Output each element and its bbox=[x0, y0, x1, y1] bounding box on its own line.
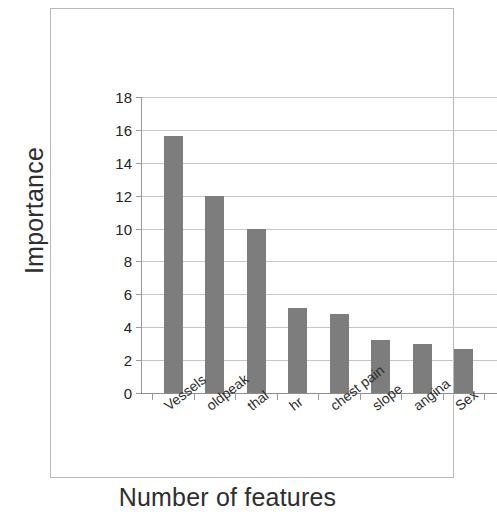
x-tick-mark bbox=[277, 393, 278, 400]
bar bbox=[288, 308, 307, 394]
y-tick-label: 0 bbox=[124, 385, 132, 402]
x-tick-mark bbox=[318, 393, 319, 400]
x-axis-labels: Vesselsoldpeakthalhrchest painslopeangin… bbox=[141, 401, 497, 481]
y-tick-label: 4 bbox=[124, 319, 132, 336]
bar bbox=[205, 196, 224, 393]
bar bbox=[330, 314, 349, 393]
x-axis-title: Number of features bbox=[0, 483, 455, 512]
y-tick-label: 12 bbox=[115, 187, 132, 204]
y-axis-title: Importance bbox=[20, 101, 49, 321]
y-tick-label: 8 bbox=[124, 253, 132, 270]
y-tick-label: 2 bbox=[124, 352, 132, 369]
y-tick-label: 16 bbox=[115, 121, 132, 138]
y-tick-label: 10 bbox=[115, 220, 132, 237]
x-tick-mark bbox=[484, 393, 485, 400]
y-tick-label: 6 bbox=[124, 286, 132, 303]
x-tick-mark bbox=[152, 393, 153, 400]
bar-series bbox=[141, 97, 497, 393]
bar bbox=[164, 136, 183, 393]
y-tick-label: 14 bbox=[115, 154, 132, 171]
y-tick-label: 18 bbox=[115, 89, 132, 106]
bar bbox=[247, 229, 266, 393]
plot-area: 181614121086420 bbox=[141, 97, 497, 393]
chart-frame: 181614121086420 Vesselsoldpeakthalhrches… bbox=[50, 8, 454, 478]
